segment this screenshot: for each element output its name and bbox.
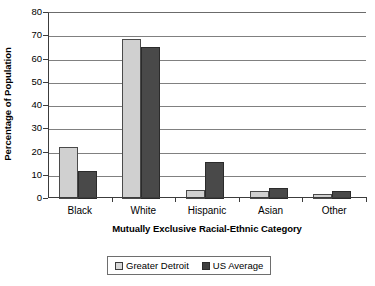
y-tick-label: 30 (18, 123, 42, 133)
x-category-label-hispanic: Hispanic (175, 205, 239, 217)
y-tick-mark (43, 175, 48, 176)
bar-white-us-average (141, 47, 160, 199)
x-category-label-white: White (112, 205, 176, 217)
x-category-label-black: Black (48, 205, 112, 217)
legend-entry-greater-detroit: Greater Detroit (115, 260, 189, 271)
x-axis-title: Mutually Exclusive Racial-Ethnic Categor… (48, 223, 366, 234)
x-tick-mark (175, 197, 176, 202)
y-tick-mark (43, 152, 48, 153)
y-tick-label: 50 (18, 77, 42, 87)
y-tick-label: 20 (18, 147, 42, 157)
y-axis-title: Percentage of Population (0, 10, 14, 198)
x-axis-line (48, 197, 366, 198)
y-tick-label: 60 (18, 54, 42, 64)
y-tick-label: 0 (18, 193, 42, 203)
y-tick-mark (43, 198, 48, 199)
gridline-70 (49, 36, 366, 37)
gridline-50 (49, 83, 366, 84)
y-tick-label: 40 (18, 100, 42, 110)
x-tick-mark (366, 197, 367, 202)
x-tick-mark (112, 197, 113, 202)
y-tick-mark (43, 12, 48, 13)
bar-black-greater-detroit (59, 147, 78, 199)
y-tick-label: 10 (18, 170, 42, 180)
x-category-label-other: Other (302, 205, 366, 217)
plot-area (48, 12, 366, 198)
gridline-60 (49, 60, 366, 61)
y-tick-mark (43, 128, 48, 129)
y-tick-mark (43, 105, 48, 106)
x-tick-mark (302, 197, 303, 202)
gridline-40 (49, 106, 366, 107)
dark-gray-square-icon (202, 262, 210, 270)
gridline-30 (49, 129, 366, 130)
y-tick-label: 70 (18, 30, 42, 40)
y-tick-mark (43, 35, 48, 36)
gridline-20 (49, 153, 366, 154)
bar-chart-figure: Percentage of Population 010203040506070… (0, 0, 375, 286)
y-tick-mark (43, 82, 48, 83)
bar-black-us-average (78, 171, 97, 199)
x-tick-mark (239, 197, 240, 202)
y-tick-mark (43, 59, 48, 60)
x-category-label-asian: Asian (239, 205, 303, 217)
y-axis-title-label: Percentage of Population (2, 47, 13, 160)
chart-legend: Greater DetroitUS Average (107, 256, 271, 275)
legend-entry-us-average: US Average (202, 260, 264, 271)
bar-hispanic-us-average (205, 162, 224, 199)
bar-white-greater-detroit (122, 39, 141, 199)
legend-label: Greater Detroit (126, 260, 189, 271)
legend-label: US Average (213, 260, 264, 271)
light-gray-square-icon (115, 262, 123, 270)
y-tick-label: 80 (18, 7, 42, 17)
